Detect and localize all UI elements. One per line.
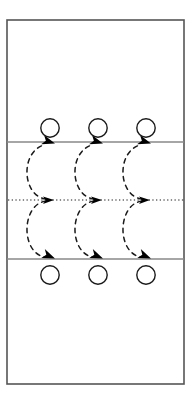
flow-field-diagram [0,0,194,403]
figure-container [0,0,194,403]
